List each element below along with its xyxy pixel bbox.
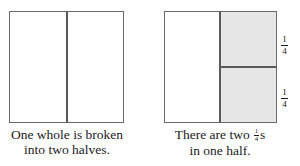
fraction-label-top: 1 4 bbox=[281, 35, 288, 56]
caption-left-line2: into two halves. bbox=[0, 142, 134, 157]
caption-left-line1: One whole is broken bbox=[0, 127, 134, 142]
caption-right-line2: in one half. bbox=[150, 143, 290, 158]
numerator: 1 bbox=[255, 128, 259, 135]
caption-right-line1: There are two 1 4 s bbox=[150, 127, 290, 143]
half-divider-left bbox=[66, 11, 68, 123]
numerator: 1 bbox=[282, 35, 287, 44]
denominator: 4 bbox=[255, 136, 259, 143]
denominator: 4 bbox=[282, 47, 287, 56]
inline-fraction: 1 4 bbox=[254, 128, 259, 143]
caption-right: There are two 1 4 s in one half. bbox=[150, 127, 290, 158]
quarter-divider bbox=[220, 66, 276, 68]
caption-suffix: s bbox=[260, 127, 265, 142]
numerator: 1 bbox=[282, 88, 287, 97]
denominator: 4 bbox=[282, 100, 287, 109]
fraction-label-bottom: 1 4 bbox=[281, 88, 288, 109]
caption-text: There are two bbox=[175, 127, 250, 142]
caption-left: One whole is broken into two halves. bbox=[0, 127, 134, 157]
